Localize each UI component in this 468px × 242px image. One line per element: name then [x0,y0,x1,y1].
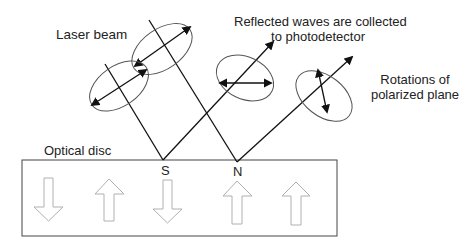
polarization-ellipse-reflected-s [209,46,281,109]
rotations-label-line1: Rotations of [367,72,463,87]
reflected-beam-2 [237,57,352,162]
magnetization-arrow-up-2 [95,179,124,221]
optical-disc-box [22,160,337,236]
reflected-waves-label-line2: to photodetector [234,29,402,44]
polarization-ellipse-reflected-n [286,61,361,132]
reflected-waves-label: Reflected waves are collected to photode… [234,14,402,44]
pole-n-label: N [233,164,242,179]
pole-s-label: S [161,163,170,178]
magnetization-arrow-down-3 [153,180,182,223]
rotations-label-line2: polarized plane [367,87,463,102]
reflected-waves-label-line1: Reflected waves are collected [234,14,402,29]
laser-beam-label: Laser beam [56,27,127,42]
optical-disc-label: Optical disc [44,143,111,158]
polarization-ellipse-incident-upper [123,13,202,85]
magnetization-arrow-up-4 [223,181,252,224]
rotations-label: Rotations of polarized plane [367,72,463,102]
incident-beam-2 [149,20,237,162]
magnetization-arrow-up-5 [282,182,310,225]
magnetization-arrow-down-1 [34,178,63,221]
